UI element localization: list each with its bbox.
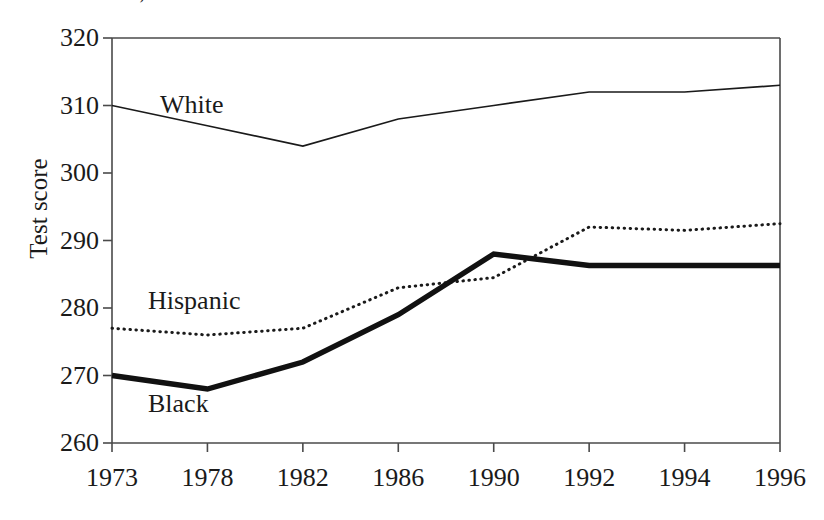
- y-tick-label: 260: [25, 430, 99, 456]
- y-tick-label: 310: [25, 93, 99, 119]
- data-series-layer: [112, 85, 780, 389]
- x-tick-label: 1990: [439, 465, 549, 491]
- chart-canvas: [0, 0, 824, 520]
- x-tick-label: 1973: [57, 465, 167, 491]
- series-label-hispanic: Hispanic: [148, 288, 240, 314]
- x-axis-ticks: [112, 443, 780, 452]
- y-tick-label: 290: [25, 228, 99, 254]
- y-tick-label: 270: [25, 363, 99, 389]
- x-tick-label: 1992: [534, 465, 644, 491]
- x-tick-label: 1986: [343, 465, 453, 491]
- series-line-hispanic: [112, 224, 780, 335]
- y-tick-label: 300: [25, 160, 99, 186]
- x-tick-label: 1996: [725, 465, 824, 491]
- y-axis-ticks: [103, 38, 112, 443]
- x-tick-label: 1994: [630, 465, 740, 491]
- series-line-black: [112, 254, 780, 389]
- series-label-white: White: [160, 92, 224, 118]
- line-chart-figure: Test score 260270280290300310320 1973197…: [0, 0, 824, 520]
- y-tick-label: 280: [25, 295, 99, 321]
- x-tick-label: 1982: [248, 465, 358, 491]
- y-tick-label: 320: [25, 25, 99, 51]
- y-axis-title: Test score: [26, 109, 51, 309]
- series-label-black: Black: [148, 391, 209, 417]
- x-tick-label: 1978: [152, 465, 262, 491]
